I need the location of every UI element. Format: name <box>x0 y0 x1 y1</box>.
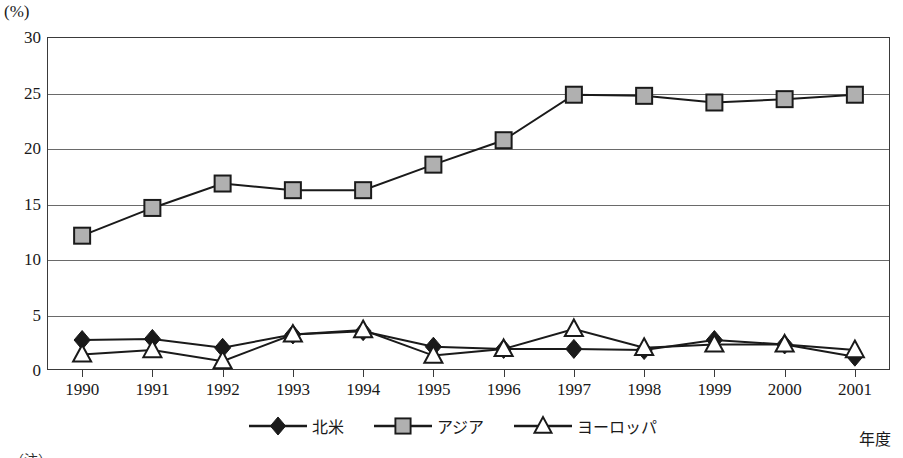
x-axis-tick-label: 1994 <box>328 380 398 400</box>
x-axis-tick-mark <box>363 370 364 377</box>
x-axis-tick-mark <box>785 370 786 377</box>
gridline <box>48 316 889 317</box>
x-axis-tick-label: 1991 <box>117 380 187 400</box>
legend-item: アジア <box>372 414 484 438</box>
x-axis-tick-mark <box>644 370 645 377</box>
footnote-text: （注） <box>10 449 52 458</box>
x-axis-tick-label: 1999 <box>679 380 749 400</box>
legend-marker-square-icon <box>372 415 434 437</box>
x-axis-tick-label: 2001 <box>820 380 890 400</box>
x-axis-tick-mark <box>433 370 434 377</box>
gridline <box>48 94 889 95</box>
x-axis-tick-mark <box>855 370 856 377</box>
legend-marker-triangle-icon <box>512 415 574 437</box>
x-axis-tick-label: 2000 <box>750 380 820 400</box>
y-axis-tick-label: 5 <box>7 306 41 323</box>
legend-label: ヨーロッパ <box>577 414 657 438</box>
x-axis-tick-label: 1993 <box>258 380 328 400</box>
y-axis-tick-label: 20 <box>7 140 41 157</box>
x-axis-tick-label: 1996 <box>469 380 539 400</box>
y-axis-tick-label: 10 <box>7 251 41 268</box>
x-axis-tick-mark <box>293 370 294 377</box>
x-axis-tick-label: 1990 <box>47 380 117 400</box>
x-axis-tick-label: 1992 <box>188 380 258 400</box>
legend-label: 北米 <box>312 414 344 438</box>
x-axis-tick-mark <box>82 370 83 377</box>
y-axis-tick-label: 25 <box>7 84 41 101</box>
x-axis-tick-mark <box>714 370 715 377</box>
y-axis-tick-label: 30 <box>7 29 41 46</box>
line-chart: (%) 051015202530199019911992199319941995… <box>0 0 903 458</box>
x-axis-tick-mark <box>152 370 153 377</box>
plot-area <box>47 37 890 370</box>
gridline <box>48 149 889 150</box>
y-axis-tick-label: 0 <box>7 362 41 379</box>
gridline <box>48 205 889 206</box>
x-axis-tick-mark <box>574 370 575 377</box>
legend-marker-diamond-icon <box>247 415 309 437</box>
legend-item: ヨーロッパ <box>512 414 657 438</box>
x-axis-tick-label: 1998 <box>609 380 679 400</box>
x-axis-title: 年度 <box>859 426 891 450</box>
y-axis-unit-label: (%) <box>4 2 29 22</box>
chart-legend: 北米アジアヨーロッパ <box>0 414 903 438</box>
legend-item: 北米 <box>247 414 344 438</box>
x-axis-tick-mark <box>504 370 505 377</box>
x-axis-tick-label: 1995 <box>398 380 468 400</box>
gridline <box>48 260 889 261</box>
y-axis-tick-label: 15 <box>7 195 41 212</box>
legend-label: アジア <box>437 414 484 438</box>
x-axis-tick-label: 1997 <box>539 380 609 400</box>
x-axis-tick-mark <box>223 370 224 377</box>
